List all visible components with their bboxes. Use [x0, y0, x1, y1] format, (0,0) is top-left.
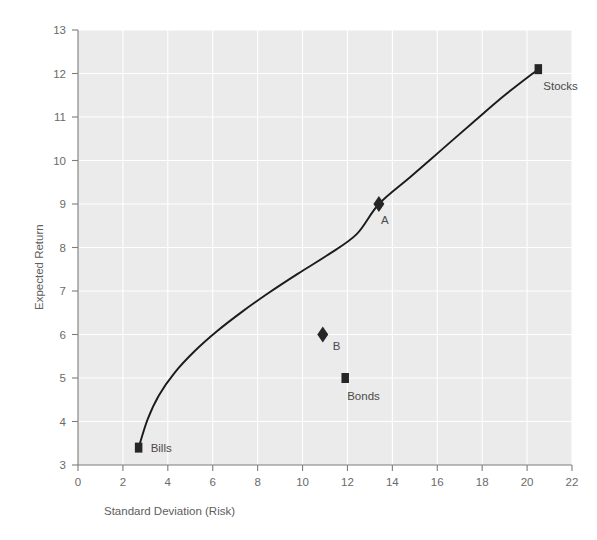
y-axis-title: Expected Return — [33, 224, 45, 310]
x-tick-label: 4 — [165, 476, 172, 488]
chart-canvas: 0246810121416182022 345678910111213 Bill… — [0, 0, 597, 540]
x-tick-label: 18 — [476, 476, 489, 488]
data-point-label-bills: Bills — [151, 442, 172, 454]
y-tick-label: 3 — [60, 459, 66, 471]
x-tick-label: 0 — [75, 476, 81, 488]
x-tick-label: 22 — [566, 476, 579, 488]
x-tick-label: 2 — [120, 476, 126, 488]
y-tick-label: 12 — [53, 68, 66, 80]
x-tick-label: 10 — [296, 476, 309, 488]
y-tick-label: 11 — [54, 111, 66, 123]
x-axis-title: Standard Deviation (Risk) — [104, 505, 235, 517]
x-axis-tick-labels: 0246810121416182022 — [75, 476, 579, 488]
y-tick-label: 8 — [60, 242, 66, 254]
x-tick-label: 20 — [521, 476, 534, 488]
data-point-label-b: B — [333, 340, 341, 352]
data-point-stocks — [535, 64, 543, 74]
y-tick-label: 13 — [53, 24, 66, 36]
data-point-bills — [135, 443, 143, 453]
y-tick-label: 10 — [53, 155, 66, 167]
y-tick-label: 4 — [60, 416, 67, 428]
x-tick-label: 14 — [386, 476, 399, 488]
x-tick-label: 12 — [341, 476, 354, 488]
x-tick-label: 16 — [431, 476, 444, 488]
data-point-label-stocks: Stocks — [543, 80, 578, 92]
data-point-bonds — [341, 373, 349, 383]
data-point-label-a: A — [381, 214, 389, 226]
efficient-frontier-chart: 0246810121416182022 345678910111213 Bill… — [0, 0, 597, 540]
y-tick-label: 5 — [60, 372, 66, 384]
y-tick-label: 9 — [60, 198, 66, 210]
y-tick-label: 7 — [60, 285, 66, 297]
y-tick-label: 6 — [60, 329, 66, 341]
data-point-label-bonds: Bonds — [347, 390, 380, 402]
y-axis-tick-labels: 345678910111213 — [53, 24, 66, 471]
x-tick-label: 6 — [210, 476, 216, 488]
x-tick-label: 8 — [254, 476, 260, 488]
